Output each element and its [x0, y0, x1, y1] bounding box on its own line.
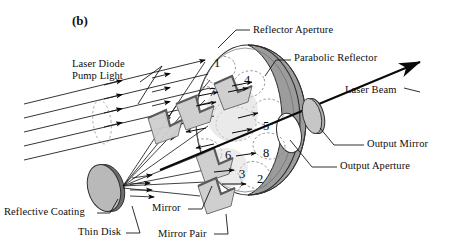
pump-beam-cross-section	[90, 99, 113, 145]
pass-number-1: 1	[214, 56, 220, 71]
pass-number-4: 4	[244, 73, 250, 88]
callout-output-aperture: Output Aperture	[340, 160, 410, 172]
callout-line-2: Pump Light	[72, 70, 123, 81]
pass-number-2: 2	[257, 172, 263, 187]
mirror-pair-far-left	[148, 110, 182, 144]
pass-number-5: 5	[263, 119, 269, 134]
callout-line-1: Laser Diode	[72, 58, 125, 69]
callout-mirror: Mirror	[152, 202, 181, 214]
callout-reflective-coating: Reflective Coating	[4, 206, 85, 218]
pass-number-6: 6	[225, 148, 231, 163]
callout-reflector-aperture: Reflector Aperture	[253, 24, 333, 36]
pass-number-3: 3	[239, 167, 245, 182]
callout-thin-disk: Thin Disk	[78, 226, 121, 238]
pass-number-7: 7	[209, 85, 215, 100]
callout-mirror-pair: Mirror Pair	[158, 228, 207, 240]
callout-laser-diode-pump-light: Laser Diode Pump Light	[72, 58, 125, 82]
callout-output-mirror: Output Mirror	[367, 138, 428, 150]
pass-number-8: 8	[263, 146, 269, 161]
panel-label: (b)	[72, 14, 88, 28]
callout-laser-beam: Laser Beam	[345, 84, 396, 96]
thin-disk-assembly	[82, 161, 130, 216]
callout-parabolic-reflector: Parabolic Reflector	[294, 52, 377, 64]
figure-panel-b: (b) Laser Diode Pump Light Reflector Ape…	[0, 0, 452, 246]
